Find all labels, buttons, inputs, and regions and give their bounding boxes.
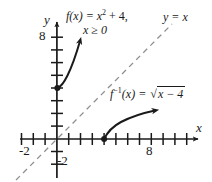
x-axis-label: x	[196, 121, 202, 134]
radicand: x − 4	[157, 86, 185, 100]
point-f-intercept	[54, 85, 60, 91]
inverse-function-middle: (x) =	[122, 87, 149, 101]
x-axis	[20, 133, 198, 145]
function-domain-label: x ≥ 0	[83, 24, 107, 36]
function-equation-text: f(x) = x	[66, 9, 102, 23]
x-tick-label-minus-2: -2	[19, 144, 30, 157]
y-tick-label-minus-2: -2	[57, 154, 68, 167]
x-tick-label-8: 8	[146, 144, 153, 157]
inverse-function-exponent: −1	[113, 86, 122, 95]
function-equation-label: f(x) = x2 + 4,	[66, 9, 128, 22]
radical-icon: √x − 4	[149, 86, 185, 100]
point-f-inverse-intercept	[101, 136, 107, 142]
graph-figure: y x 8 8 -2 -2 f(x) = x2 + 4, x ≥ 0 y = x…	[0, 0, 212, 182]
identity-line-label: y = x	[163, 11, 188, 23]
y-axis-label: y	[44, 13, 50, 26]
curve-f-of-x	[54, 41, 80, 91]
function-equation-tail: + 4,	[106, 9, 128, 23]
y-tick-label-8: 8	[39, 29, 46, 42]
inverse-function-label: f−1(x) = √x − 4	[110, 86, 185, 100]
